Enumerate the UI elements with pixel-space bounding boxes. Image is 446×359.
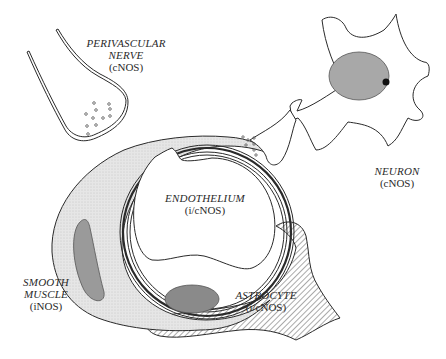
nucleolus bbox=[383, 79, 390, 86]
label-neuron: NEURON (cNOS) bbox=[362, 165, 432, 189]
label-perivascular-nerve: PERIVASCULAR NERVE (cNOS) bbox=[78, 37, 174, 73]
label-astrocyte: ASTROCYTE (i/cNOS) bbox=[226, 289, 306, 313]
neuron-nucleus bbox=[329, 52, 389, 100]
axon-terminal bbox=[250, 110, 296, 165]
endothelial-nucleus bbox=[165, 285, 219, 313]
label-smooth-muscle: SMOOTH MUSCLE (iNOS) bbox=[14, 276, 78, 312]
neuron bbox=[242, 14, 429, 165]
label-endothelium: ENDOTHELIUM (i/cNOS) bbox=[155, 192, 255, 216]
nos-diagram: PERIVASCULAR NERVE (cNOS) NEURON (cNOS) … bbox=[0, 0, 446, 359]
